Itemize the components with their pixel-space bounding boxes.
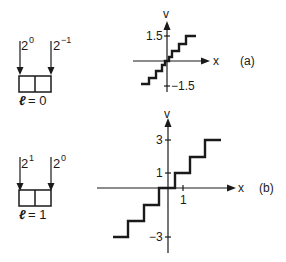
y-axis-label: v	[164, 107, 170, 121]
plot-a: v x 1.5 −1.5	[133, 7, 219, 93]
plot-b: v x 3 1 −3 1	[97, 107, 244, 253]
y-axis-label: v	[163, 7, 169, 21]
y-tick-label: 3	[156, 133, 163, 147]
bit-weight-lsb-b: 2 0	[53, 153, 66, 171]
quantizer-diagram: 2 0 2 −1 ℓ = 0 v x	[0, 0, 286, 262]
x-axis-label: x	[238, 181, 244, 195]
register-b: 2 1 2 0 ℓ = 1	[17, 153, 67, 222]
arrow-up-icon	[164, 21, 171, 30]
bit-weight-base: 2	[21, 38, 28, 53]
bit-weight-exponent: 1	[29, 153, 34, 163]
level-value: = 1	[28, 207, 46, 222]
x-tick-label: 1	[180, 193, 187, 207]
arrow-right-icon	[201, 58, 210, 65]
level-variable: ℓ	[19, 93, 26, 108]
y-tick-label: 1.5	[146, 29, 163, 43]
level-value: = 0	[28, 93, 46, 108]
panel-caption: (a)	[240, 54, 255, 68]
arrow-right-icon	[227, 185, 236, 192]
panel-caption: (b)	[259, 181, 274, 195]
bit-weight-base: 2	[53, 156, 60, 171]
panel-b: 2 1 2 0 ℓ = 1 v x	[17, 107, 274, 253]
bit-weight-exponent: 0	[61, 153, 66, 163]
bit-weight-lsb-a: 2 −1	[53, 35, 71, 53]
bit-weight-msb-b: 2 1	[21, 153, 34, 171]
bit-weight-exponent: 0	[29, 35, 34, 45]
bit-weight-base: 2	[21, 156, 28, 171]
level-variable: ℓ	[19, 207, 26, 222]
y-tick-label: −1.5	[171, 79, 195, 93]
register-a: 2 0 2 −1 ℓ = 0	[17, 35, 72, 108]
y-tick-label: 1	[156, 166, 163, 180]
arrow-head-icon	[17, 67, 24, 75]
panel-a: 2 0 2 −1 ℓ = 0 v x	[17, 7, 255, 108]
arrow-head-icon	[48, 67, 55, 75]
bit-weight-msb-a: 2 0	[21, 35, 34, 53]
quantizer-staircase	[141, 36, 196, 84]
y-tick-label: −3	[149, 230, 163, 244]
bit-weight-base: 2	[53, 38, 60, 53]
bit-weight-exponent: −1	[61, 35, 71, 45]
x-axis-label: x	[213, 54, 219, 68]
